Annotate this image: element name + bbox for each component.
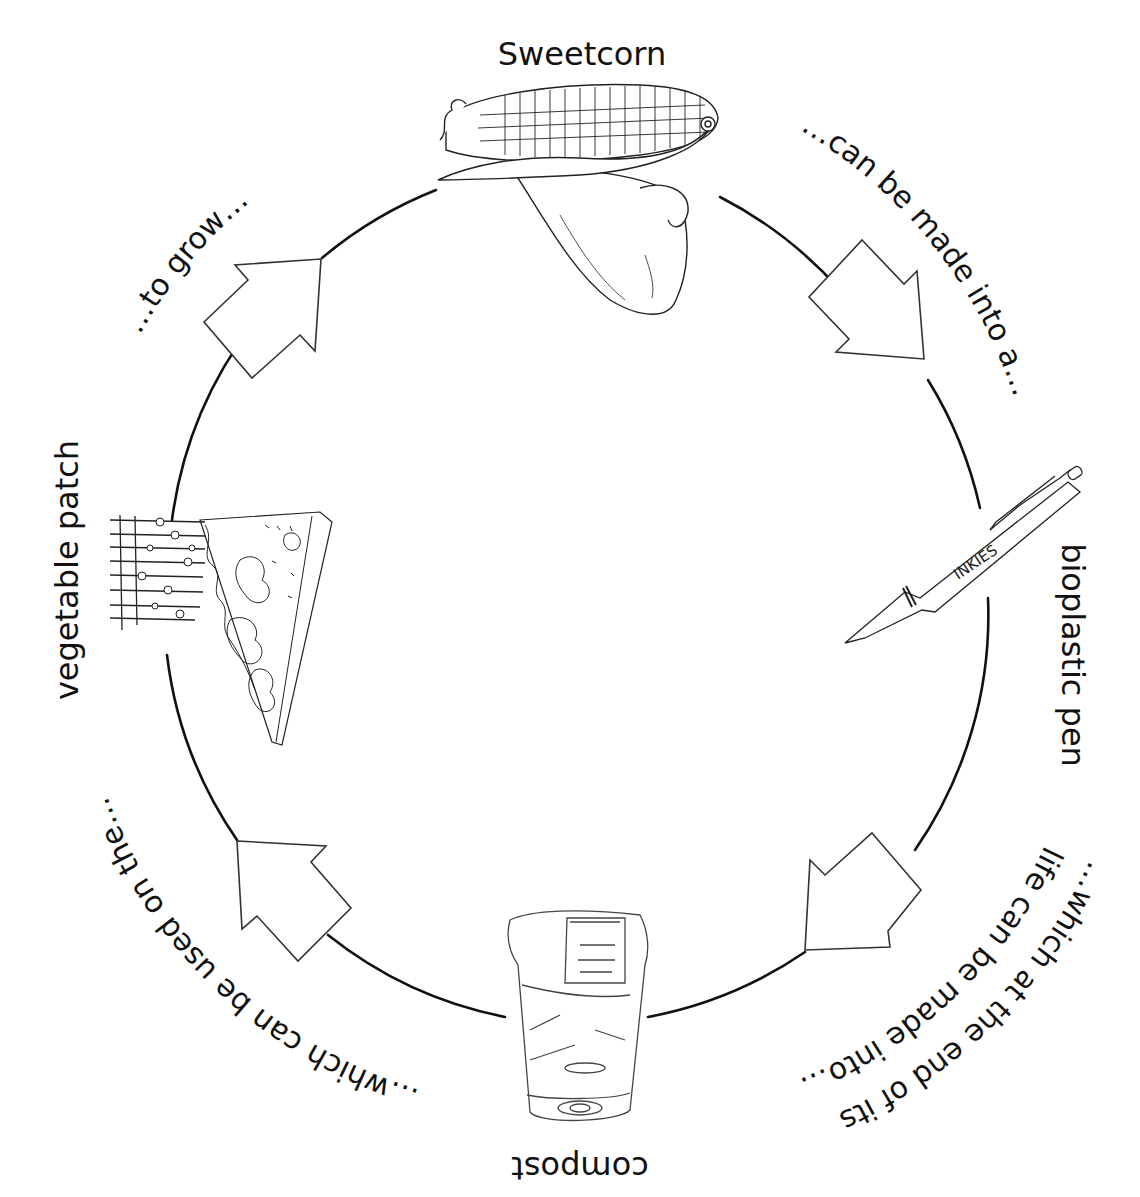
arrow-pen-to-compost [805, 833, 921, 950]
cycle-diagram: INKIES [0, 0, 1140, 1197]
stage-label-vegetable-patch: vegetable patch [48, 440, 86, 700]
corn-cob-icon [438, 85, 718, 315]
pen-icon: INKIES [845, 465, 1084, 643]
compost-cup-icon [508, 911, 648, 1121]
vegetable-patch-icon [110, 512, 332, 745]
arrow-corn-to-pen [809, 240, 924, 359]
stage-label-sweetcorn: Sweetcorn [498, 35, 666, 73]
cycle-diagram-graphic: INKIES [0, 0, 1140, 1197]
stage-label-pen: bioplastic pen [1054, 543, 1092, 767]
arrow-patch-to-corn [204, 259, 321, 378]
arrow-compost-to-patch [237, 841, 351, 961]
stage-label-compost: compost [511, 1149, 648, 1187]
